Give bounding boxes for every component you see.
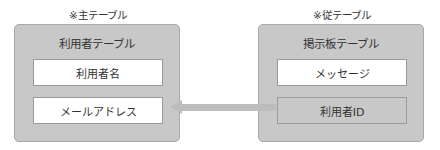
users-table-title: 利用者テーブル (15, 35, 179, 51)
field-user-id: 利用者ID (277, 97, 407, 124)
users-table-box: 利用者テーブル 利用者名 メールアドレス (14, 24, 180, 142)
relation-arrow-shaft (182, 104, 276, 111)
field-message: メッセージ (277, 59, 407, 86)
bulletin-board-table-box: 掲示板テーブル メッセージ 利用者ID (258, 24, 424, 142)
main-table-caption: ※主テーブル (14, 7, 182, 22)
field-email-address: メールアドレス (33, 97, 163, 124)
arrow-left-icon (170, 100, 182, 114)
bulletin-board-table-title: 掲示板テーブル (259, 35, 423, 51)
field-user-name: 利用者名 (33, 59, 163, 86)
sub-table-caption: ※従テーブル (258, 7, 426, 22)
